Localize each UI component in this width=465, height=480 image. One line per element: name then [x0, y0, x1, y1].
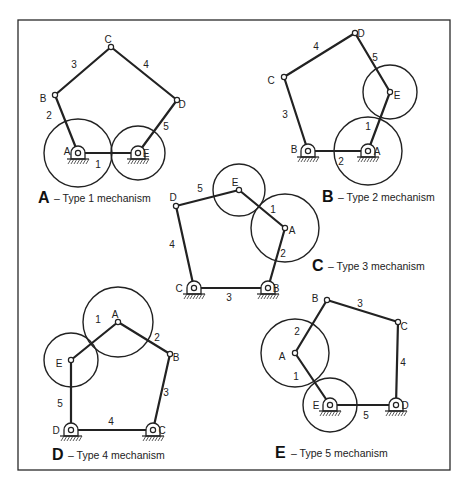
pin-joint-icon	[115, 319, 120, 324]
joint-label-c: C	[158, 425, 165, 436]
joint-label-a: A	[112, 309, 119, 320]
joint-label-b: B	[312, 293, 319, 304]
link-1	[239, 190, 285, 228]
caption-letter: A	[38, 189, 50, 206]
joint-label-b: B	[291, 144, 298, 155]
panels-group: 12345ABCDEA– Type 1 mechanism12345ABCDEB…	[38, 28, 435, 464]
ground-pivot-icon	[60, 423, 82, 441]
pin-joint-icon	[324, 297, 329, 302]
joint-label-c: C	[104, 34, 111, 45]
caption-text: – Type 2 mechanism	[338, 191, 435, 203]
joint-label-e: E	[394, 90, 401, 101]
panel-e: 12345ABCDEE– Type 5 mechanism	[261, 293, 409, 462]
link-number-label: 5	[372, 52, 378, 63]
pin-joint-icon	[236, 187, 241, 192]
pin-joint-icon	[173, 203, 178, 208]
link-4	[111, 47, 177, 100]
link-number-label: 4	[313, 41, 319, 52]
panel-a: 12345ABCDEA– Type 1 mechanism	[38, 34, 186, 207]
joint-label-c: C	[400, 321, 407, 332]
joint-label-d: D	[52, 425, 59, 436]
joint-label-a: A	[289, 225, 296, 236]
joint-label-e: E	[56, 358, 63, 369]
joint-label-a: A	[279, 351, 286, 362]
joint-label-e: E	[313, 400, 320, 411]
caption-letter: D	[52, 446, 64, 463]
link-number-label: 3	[357, 298, 363, 309]
joint-label-d: D	[169, 192, 176, 203]
joint-label-a: A	[64, 146, 71, 157]
ground-pivot-icon	[297, 144, 319, 162]
link-1	[368, 92, 390, 151]
caption-letter: C	[312, 257, 324, 274]
link-number-label: 2	[280, 248, 286, 259]
link-number-label: 1	[293, 371, 299, 382]
link-number-label: 4	[108, 416, 114, 427]
figure-frame	[18, 20, 450, 470]
caption-letter: E	[275, 444, 286, 461]
caption-text: – Type 3 mechanism	[328, 260, 425, 272]
link-4	[176, 206, 194, 288]
ground-pivot-icon	[183, 281, 205, 299]
link-number-label: 1	[365, 121, 371, 132]
link-number-label: 5	[363, 410, 369, 421]
joint-label-b: B	[173, 352, 180, 363]
link-number-label: 2	[154, 332, 160, 343]
panel-c: 12345ABCDEC– Type 3 mechanism	[169, 164, 425, 303]
panel-d: 12345ABCDED– Type 4 mechanism	[44, 287, 180, 463]
pin-joint-icon	[68, 357, 73, 362]
link-1	[71, 322, 118, 360]
caption-text: – Type 5 mechanism	[291, 447, 388, 459]
caption-letter: B	[322, 188, 334, 205]
link-number-label: 3	[71, 59, 77, 70]
joint-label-d: D	[178, 99, 185, 110]
joint-label-d: D	[401, 400, 408, 411]
link-2	[295, 300, 327, 353]
link-3	[55, 47, 111, 95]
joint-label-d: D	[357, 28, 364, 39]
joint-label-c: C	[267, 75, 274, 86]
link-number-label: 3	[226, 292, 232, 303]
joint-label-b: B	[273, 283, 280, 294]
pin-joint-icon	[282, 225, 287, 230]
link-number-label: 1	[95, 314, 101, 325]
pin-joint-icon	[52, 92, 57, 97]
pin-joint-icon	[281, 74, 286, 79]
link-number-label: 4	[143, 59, 149, 70]
link-2	[118, 322, 170, 354]
mechanism-diagram: 12345ABCDEA– Type 1 mechanism12345ABCDEB…	[0, 0, 465, 480]
link-number-label: 3	[163, 387, 169, 398]
ground-pivot-icon	[319, 398, 341, 416]
link-number-label: 1	[270, 204, 276, 215]
link-number-label: 5	[57, 398, 63, 409]
link-5	[176, 190, 239, 206]
link-number-label: 2	[294, 326, 300, 337]
link-2	[55, 95, 78, 153]
caption-text: – Type 1 mechanism	[54, 192, 151, 204]
link-number-label: 5	[197, 183, 203, 194]
link-number-label: 3	[282, 109, 288, 120]
pin-joint-icon	[387, 89, 392, 94]
link-4	[284, 33, 355, 77]
link-number-label: 1	[95, 159, 101, 170]
link-number-label: 4	[169, 239, 175, 250]
pin-joint-icon	[108, 44, 113, 49]
link-number-label: 2	[338, 156, 344, 167]
joint-label-e: E	[143, 148, 150, 159]
joint-label-e: E	[232, 177, 239, 188]
joint-label-a: A	[374, 146, 381, 157]
link-number-label: 2	[46, 110, 52, 121]
link-number-label: 4	[400, 357, 406, 368]
joint-label-b: B	[40, 93, 47, 104]
panel-b: 12345ABCDEB– Type 2 mechanism	[267, 28, 435, 206]
joint-label-c: C	[175, 283, 182, 294]
caption-text: – Type 4 mechanism	[68, 449, 165, 461]
pin-joint-icon	[292, 350, 297, 355]
link-number-label: 5	[163, 121, 169, 132]
link-4	[396, 322, 398, 405]
